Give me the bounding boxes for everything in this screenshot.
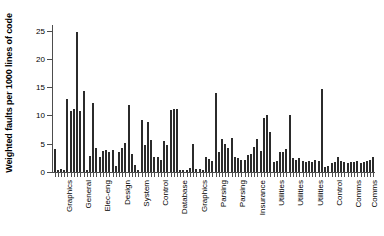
x-axis-tick bbox=[93, 173, 94, 177]
bar bbox=[70, 111, 72, 172]
x-axis-tick bbox=[309, 173, 310, 177]
x-axis-tick bbox=[238, 173, 239, 177]
bar bbox=[199, 169, 201, 172]
bar bbox=[66, 99, 68, 173]
bar-chart-figure: Weighted faults per 1000 lines of code 0… bbox=[0, 0, 384, 236]
x-axis-tick bbox=[222, 173, 223, 177]
bar bbox=[289, 115, 291, 172]
bar bbox=[279, 152, 281, 172]
bar bbox=[166, 145, 168, 172]
x-axis-tick bbox=[193, 173, 194, 177]
bar bbox=[237, 158, 239, 172]
x-axis-tick bbox=[216, 173, 217, 177]
x-axis-tick bbox=[257, 173, 258, 177]
bar bbox=[202, 170, 204, 172]
bar bbox=[121, 148, 123, 172]
bar bbox=[360, 163, 362, 172]
x-axis-tick bbox=[235, 173, 236, 177]
x-axis-tick bbox=[370, 173, 371, 177]
x-axis-tick bbox=[251, 173, 252, 177]
x-axis-tick bbox=[174, 173, 175, 177]
bar bbox=[369, 160, 371, 172]
x-axis-tick bbox=[119, 173, 120, 177]
bar bbox=[176, 109, 178, 172]
x-axis-tick bbox=[74, 173, 75, 177]
x-axis-tick bbox=[125, 173, 126, 177]
bar bbox=[331, 163, 333, 172]
x-axis-tick bbox=[58, 173, 59, 177]
bar bbox=[295, 160, 297, 172]
bar bbox=[205, 157, 207, 172]
bar bbox=[311, 162, 313, 172]
bar bbox=[221, 139, 223, 172]
y-axis-tick-label: 0 bbox=[5, 168, 45, 177]
x-axis-category-label: Graphics bbox=[65, 180, 74, 212]
bar bbox=[137, 170, 139, 172]
bar bbox=[112, 150, 114, 172]
x-axis-tick bbox=[67, 173, 68, 177]
x-axis-tick bbox=[129, 173, 130, 177]
x-axis-tick bbox=[77, 173, 78, 177]
bar bbox=[57, 170, 59, 172]
bar bbox=[150, 140, 152, 172]
x-axis-tick bbox=[361, 173, 362, 177]
x-axis-tick bbox=[154, 173, 155, 177]
bar bbox=[63, 170, 65, 172]
x-axis-tick bbox=[325, 173, 326, 177]
bar bbox=[247, 155, 249, 172]
x-axis-tick bbox=[219, 173, 220, 177]
bar bbox=[305, 162, 307, 172]
x-axis-tick bbox=[61, 173, 62, 177]
bar bbox=[134, 165, 136, 172]
bar bbox=[356, 161, 358, 172]
bar bbox=[308, 161, 310, 172]
x-axis-tick bbox=[283, 173, 284, 177]
x-axis-tick bbox=[261, 173, 262, 177]
bar bbox=[215, 93, 217, 172]
x-axis-tick bbox=[344, 173, 345, 177]
x-axis-tick bbox=[290, 173, 291, 177]
bar bbox=[192, 144, 194, 172]
x-axis-category-label: Insurance bbox=[258, 180, 267, 215]
x-axis-tick bbox=[71, 173, 72, 177]
bar bbox=[321, 89, 323, 172]
bar bbox=[240, 160, 242, 172]
x-axis-tick bbox=[64, 173, 65, 177]
bar bbox=[218, 152, 220, 172]
bar bbox=[141, 120, 143, 172]
bar bbox=[343, 162, 345, 172]
x-axis-tick bbox=[241, 173, 242, 177]
x-axis-tick bbox=[183, 173, 184, 177]
x-axis-tick bbox=[373, 173, 374, 177]
x-axis-category-label: Utilities bbox=[277, 180, 286, 206]
x-axis-tick bbox=[312, 173, 313, 177]
bar bbox=[182, 170, 184, 172]
x-axis-tick bbox=[142, 173, 143, 177]
x-axis-tick bbox=[196, 173, 197, 177]
bar bbox=[163, 141, 165, 172]
x-axis-tick bbox=[254, 173, 255, 177]
x-axis-tick bbox=[328, 173, 329, 177]
bar bbox=[99, 157, 101, 172]
bar bbox=[227, 148, 229, 172]
bar bbox=[105, 150, 107, 172]
x-axis-tick bbox=[206, 173, 207, 177]
x-axis-tick bbox=[122, 173, 123, 177]
x-axis-category-label: Control bbox=[161, 180, 170, 206]
x-axis-tick bbox=[177, 173, 178, 177]
x-axis-tick bbox=[55, 173, 56, 177]
bar bbox=[256, 139, 258, 172]
x-axis-tick bbox=[109, 173, 110, 177]
bar bbox=[115, 166, 117, 172]
bar bbox=[231, 138, 233, 172]
x-axis-tick bbox=[212, 173, 213, 177]
x-axis-tick bbox=[171, 173, 172, 177]
x-axis-tick bbox=[228, 173, 229, 177]
x-axis-tick bbox=[286, 173, 287, 177]
x-axis-category-label: System bbox=[142, 180, 151, 207]
bar bbox=[263, 118, 265, 172]
bar bbox=[285, 149, 287, 172]
bar bbox=[170, 110, 172, 172]
x-axis-tick bbox=[113, 173, 114, 177]
bar bbox=[79, 111, 81, 172]
